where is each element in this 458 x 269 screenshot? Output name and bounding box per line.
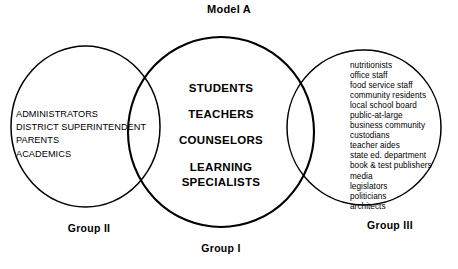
group-two-caption: Group II [29, 222, 149, 234]
group-three-item: local school board [350, 101, 458, 111]
venn-diagram-model-a: Model A ADMINISTRATORS DISTRICT SUPERINT… [0, 0, 458, 269]
group-three-item: business community [350, 121, 458, 131]
group-three-item: architects [350, 202, 458, 212]
diagram-title: Model A [0, 3, 458, 15]
group-one-item: TEACHERS [129, 108, 313, 120]
group-three-item: legislators [350, 182, 458, 192]
group-three-caption: Group III [330, 219, 450, 231]
group-three-item: book & test publishers [350, 161, 458, 171]
group-one-item-line: SPECIALISTS [129, 175, 313, 190]
group-one-item: COUNSELORS [129, 134, 313, 146]
group-one-caption: Group I [161, 242, 281, 254]
group-three-item: teacher aides [350, 141, 458, 151]
group-one-item: LEARNING SPECIALISTS [129, 160, 313, 189]
group-three-item: office staff [350, 71, 458, 81]
group-three-member-list: nutritionists office staff food service … [350, 61, 458, 212]
group-three-item: state ed. department [350, 151, 458, 161]
group-three-item: food service staff [350, 81, 458, 91]
group-three-item: community residents [350, 91, 458, 101]
group-three-item: nutritionists [350, 61, 458, 71]
group-one-item: STUDENTS [129, 82, 313, 94]
group-three-item: public-at-large [350, 111, 458, 121]
group-three-item: politicians [350, 192, 458, 202]
group-three-item: custodians [350, 131, 458, 141]
group-three-item: media [350, 172, 458, 182]
group-one-member-list: STUDENTS TEACHERS COUNSELORS LEARNING SP… [129, 82, 313, 189]
group-one-item-line: LEARNING [129, 160, 313, 175]
